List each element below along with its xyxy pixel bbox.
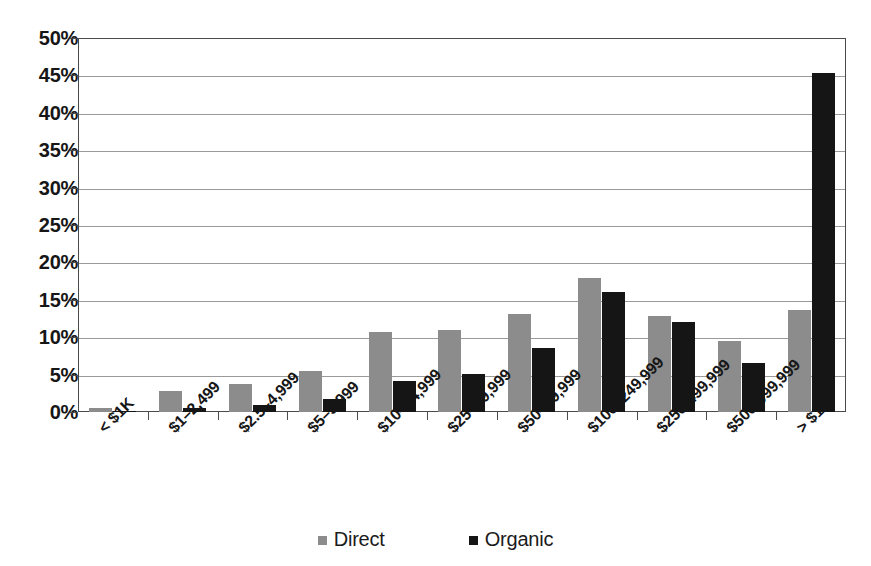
legend-item-direct: Direct bbox=[318, 528, 385, 551]
y-axis-tick-label: 40% bbox=[12, 103, 78, 123]
bar-group bbox=[218, 38, 288, 412]
bar-group bbox=[357, 38, 427, 412]
y-axis-tick-mark bbox=[70, 150, 78, 151]
y-axis-tick-label: 50% bbox=[12, 28, 78, 48]
y-axis-tick-mark bbox=[70, 38, 78, 39]
y-axis-tick-label: 10% bbox=[12, 327, 78, 347]
bar-chart: 0%5%10%15%20%25%30%35%40%45%50% < $1K$1–… bbox=[0, 0, 871, 566]
bar-direct bbox=[369, 332, 392, 412]
y-axis-tick-mark bbox=[70, 375, 78, 376]
bar-direct bbox=[229, 384, 252, 412]
bar-direct bbox=[299, 371, 322, 412]
chart-legend: DirectOrganic bbox=[0, 522, 871, 556]
y-axis-tick-mark bbox=[70, 337, 78, 338]
y-axis-tick-label: 35% bbox=[12, 140, 78, 160]
legend-swatch-icon bbox=[469, 536, 478, 545]
legend-swatch-icon bbox=[318, 536, 327, 545]
y-axis-tick-label: 5% bbox=[12, 365, 78, 385]
y-axis-tick-mark bbox=[70, 188, 78, 189]
bars-layer bbox=[78, 38, 846, 412]
y-axis-tick-mark bbox=[70, 113, 78, 114]
bar-group bbox=[78, 38, 148, 412]
y-axis-tick-mark bbox=[70, 75, 78, 76]
bar-direct bbox=[578, 278, 601, 412]
bar-group bbox=[427, 38, 497, 412]
y-axis: 0%5%10%15%20%25%30%35%40%45%50% bbox=[0, 0, 78, 566]
bar-direct bbox=[508, 314, 531, 412]
legend-label: Direct bbox=[334, 528, 385, 551]
bar-group bbox=[497, 38, 567, 412]
y-axis-tick-mark bbox=[70, 225, 78, 226]
y-axis-tick-mark bbox=[70, 300, 78, 301]
y-axis-tick-mark bbox=[70, 262, 78, 263]
bar-direct bbox=[438, 330, 461, 412]
y-axis-tick-label: 30% bbox=[12, 178, 78, 198]
y-axis-tick-label: 25% bbox=[12, 215, 78, 235]
y-axis-tick-label: 45% bbox=[12, 65, 78, 85]
y-axis-tick-mark bbox=[70, 412, 78, 413]
bar-group bbox=[567, 38, 637, 412]
bar-group bbox=[637, 38, 707, 412]
bar-group bbox=[776, 38, 846, 412]
legend-item-organic: Organic bbox=[469, 528, 554, 551]
y-axis-tick-label: 15% bbox=[12, 290, 78, 310]
bar-group bbox=[706, 38, 776, 412]
bar-group bbox=[287, 38, 357, 412]
bar-group bbox=[148, 38, 218, 412]
legend-label: Organic bbox=[485, 528, 554, 551]
y-axis-tick-label: 20% bbox=[12, 252, 78, 272]
x-axis-labels: < $1K$1–2,499$2.5–4,999$5–9,999$10–24,99… bbox=[78, 412, 846, 522]
bar-organic bbox=[812, 73, 835, 412]
y-axis-tick-label: 0% bbox=[12, 402, 78, 422]
